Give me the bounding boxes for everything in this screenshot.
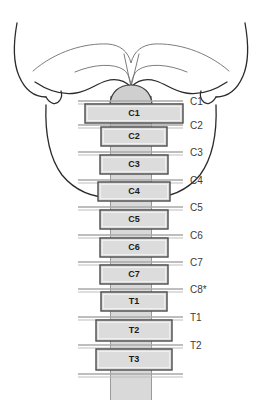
vertebra-label: C6 [128, 242, 140, 252]
nerve-level-label: C6 [190, 230, 203, 241]
mandible-upper-arc [33, 44, 229, 71]
vertebra-C7: C7 [100, 265, 168, 284]
vertebra-T1: T1 [101, 292, 167, 311]
vertebra-C1: C1 [85, 104, 183, 123]
vertebra-C6: C6 [100, 238, 168, 257]
nerve-level-label: C4 [190, 175, 203, 186]
nerve-level-label: C3 [190, 147, 203, 158]
nerve-level-label: C5 [190, 202, 203, 213]
nerve-level-label: C8* [190, 284, 207, 295]
vertebra-label: C4 [128, 186, 140, 196]
vertebra-label: C7 [128, 269, 140, 279]
vertebra-label: C1 [128, 108, 140, 118]
vertebra-label: T2 [129, 325, 140, 335]
nerve-level-label: C7 [190, 257, 203, 268]
vertebra-label: C5 [128, 214, 140, 224]
mandible-inner-arc [75, 65, 187, 85]
vertebra-T3: T3 [96, 349, 172, 370]
vertebra-label: C2 [128, 131, 140, 141]
vertebra-T2: T2 [96, 320, 172, 341]
vertebra-C3: C3 [100, 155, 168, 174]
vertebra-C4: C4 [98, 182, 170, 201]
spine-anatomy-figure: C1C2C3C4C5C6C7C8*T1T2 C1C2C3C4C5C6C7T1T2… [0, 0, 262, 410]
vertebra-label: T3 [129, 354, 140, 364]
vertebra-label: C3 [128, 159, 140, 169]
vertebra-label: T1 [129, 296, 140, 306]
vertebra-C2: C2 [101, 127, 167, 146]
nerve-level-label: C1 [190, 96, 203, 107]
spine-diagram-svg: C1C2C3C4C5C6C7C8*T1T2 C1C2C3C4C5C6C7T1T2… [0, 0, 262, 410]
nerve-level-label: T1 [190, 312, 202, 323]
nerve-level-label: T2 [190, 340, 202, 351]
nerve-level-label: C2 [190, 120, 203, 131]
vertebra-C5: C5 [100, 210, 168, 229]
